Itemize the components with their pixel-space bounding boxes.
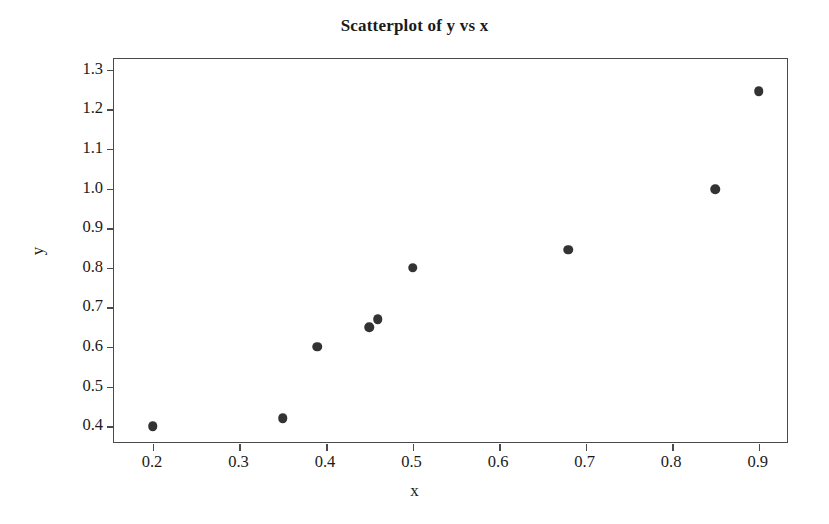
y-axis-tick-label: 0.5 bbox=[82, 376, 103, 396]
x-axis-tick-label: 0.9 bbox=[747, 452, 768, 472]
scatter-point bbox=[365, 322, 375, 332]
scatter-point bbox=[408, 263, 418, 273]
x-axis-tick bbox=[586, 444, 588, 451]
x-axis-tick-label: 0.6 bbox=[488, 452, 509, 472]
y-axis-tick bbox=[107, 70, 114, 72]
scatter-point bbox=[373, 314, 383, 324]
scatterplot-figure: Scatterplot of y vs x 0.40.50.60.70.80.9… bbox=[0, 0, 829, 524]
y-axis-tick bbox=[107, 387, 114, 389]
x-axis-tick bbox=[499, 444, 501, 451]
scatter-point bbox=[711, 185, 721, 195]
y-axis-tick-label: 0.6 bbox=[82, 336, 103, 356]
y-axis-tick-label: 1.1 bbox=[82, 138, 103, 158]
x-axis-tick bbox=[413, 444, 415, 451]
y-axis-tick-label: 1.2 bbox=[82, 98, 103, 118]
y-axis-tick-label: 0.4 bbox=[82, 415, 103, 435]
x-axis-tick bbox=[672, 444, 674, 451]
y-axis-tick bbox=[107, 307, 114, 309]
y-axis-tick-labels: 0.40.50.60.70.80.91.01.11.21.3 bbox=[0, 0, 103, 524]
y-axis-tick-label: 0.9 bbox=[82, 217, 103, 237]
x-axis-tick bbox=[239, 444, 241, 451]
x-axis-tick-label: 0.8 bbox=[661, 452, 682, 472]
plot-area bbox=[113, 58, 788, 443]
y-axis-tick bbox=[107, 228, 114, 230]
y-axis-tick bbox=[107, 268, 114, 270]
y-axis-tick bbox=[107, 149, 114, 151]
x-axis-tick-label: 0.3 bbox=[228, 452, 249, 472]
scatter-point bbox=[313, 342, 323, 352]
x-axis-tick-labels: 0.20.30.40.50.60.70.80.9 bbox=[0, 452, 829, 482]
y-axis-tick-label: 0.8 bbox=[82, 257, 103, 277]
x-axis-tick bbox=[759, 444, 761, 451]
scatter-point bbox=[148, 421, 158, 431]
y-axis-label: y bbox=[28, 247, 48, 256]
x-axis-tick bbox=[153, 444, 155, 451]
y-axis-tick-label: 0.7 bbox=[82, 296, 103, 316]
x-axis-tick-label: 0.2 bbox=[142, 452, 163, 472]
x-axis-tick-label: 0.7 bbox=[574, 452, 595, 472]
scatter-point bbox=[754, 87, 764, 97]
y-axis-tick bbox=[107, 189, 114, 191]
x-axis-tick bbox=[326, 444, 328, 451]
y-axis-tick bbox=[107, 347, 114, 349]
x-axis-tick-label: 0.4 bbox=[315, 452, 336, 472]
y-axis-tick-label: 1.0 bbox=[82, 178, 103, 198]
chart-title: Scatterplot of y vs x bbox=[0, 16, 829, 36]
x-axis-tick-label: 0.5 bbox=[401, 452, 422, 472]
scatter-point bbox=[278, 414, 288, 424]
y-axis-tick bbox=[107, 426, 114, 428]
scatter-point bbox=[564, 245, 574, 255]
x-axis-label: x bbox=[0, 481, 829, 501]
y-axis-tick bbox=[107, 109, 114, 111]
y-axis-tick-label: 1.3 bbox=[82, 59, 103, 79]
